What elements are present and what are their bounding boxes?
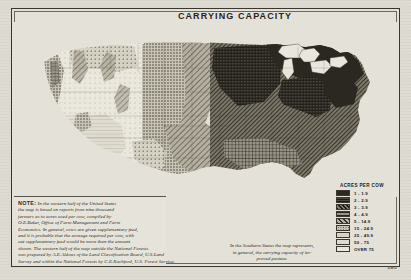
legend-item[interactable]: 4 - 4.9 (336, 211, 396, 217)
legend-swatch-icon (336, 211, 350, 217)
note-line-9: Survey and within the National Forests b… (18, 259, 163, 265)
note-label: NOTE: (18, 200, 36, 206)
legend-item[interactable]: 1 - 1.9 (336, 190, 396, 196)
note-line-8: was prepared by A.E.Aldous of the Land C… (18, 252, 163, 258)
legend-label: 25 - 49.9 (354, 233, 373, 238)
page-title: CARRYING CAPACITY (150, 11, 320, 22)
legend-swatch-icon (336, 246, 350, 252)
legend-swatch-icon (336, 197, 350, 203)
note-text-0: In the western half of the United States (38, 201, 117, 206)
legend-item[interactable]: OVER 75 (336, 246, 396, 252)
drawing-credit: DWG (388, 266, 397, 270)
south-note-line-2: proved pasture. (208, 256, 336, 263)
usa-choropleth (14, 22, 397, 197)
legend-label: 3 - 3.9 (354, 205, 368, 210)
legend-label: 15 - 24.9 (354, 226, 373, 231)
legend-label: 5 - 14.9 (354, 219, 371, 224)
legend-item[interactable]: 3 - 3.9 (336, 204, 396, 210)
legend-item[interactable]: 25 - 49.9 (336, 232, 396, 238)
south-note-line-0: In the Southern States the map represent… (208, 243, 336, 250)
map-legend: ACRES PER COW 1 - 1.9 2 - 2.9 3 - 3.9 4 … (336, 183, 396, 253)
legend-label: OVER 75 (354, 247, 374, 252)
legend-item[interactable]: 2 - 2.9 (336, 197, 396, 203)
legend-label: 4 - 4.9 (354, 212, 368, 217)
note-line-0: NOTE: In the western half of the United … (18, 200, 163, 207)
legend-item[interactable]: 50 - 75 (336, 239, 396, 245)
legend-label: 2 - 2.9 (354, 198, 368, 203)
legend-swatch-icon (336, 218, 350, 224)
legend-item[interactable]: 5 - 14.9 (336, 218, 396, 224)
legend-label: 50 - 75 (354, 240, 369, 245)
south-note-line-1: in general, the carrying capacity of im- (208, 250, 336, 257)
legend-swatch-icon (336, 239, 350, 245)
map-canvas (14, 22, 397, 197)
legend-swatch-icon (336, 204, 350, 210)
map-sheet: CARRYING CAPACITY OF PASTURE AND RANGELA… (0, 0, 411, 280)
legend-item[interactable]: 15 - 24.9 (336, 225, 396, 231)
legend-swatch-icon (336, 225, 350, 231)
southern-states-note: In the Southern States the map represent… (208, 243, 336, 263)
legend-label: 1 - 1.9 (354, 191, 368, 196)
legend-swatch-icon (336, 190, 350, 196)
legend-swatch-icon (336, 232, 350, 238)
note-block: NOTE: In the western half of the United … (14, 196, 166, 264)
legend-title: ACRES PER COW (340, 183, 396, 188)
